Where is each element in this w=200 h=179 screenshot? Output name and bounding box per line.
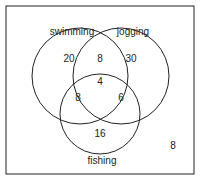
jogging-only-value: 30 [125, 53, 137, 64]
fishing-only-value: 16 [94, 128, 106, 139]
jogging-fishing-value: 6 [118, 92, 124, 103]
outside-value: 8 [170, 140, 176, 151]
swimming-jogging-value: 8 [97, 53, 103, 64]
swimming-only-value: 20 [63, 53, 75, 64]
venn-diagram: swimming jogging fishing 20 30 16 8 8 6 … [0, 0, 200, 179]
swimming-label: swimming [50, 26, 94, 37]
all-three-value: 4 [97, 76, 103, 87]
jogging-label: jogging [116, 26, 149, 37]
fishing-label: fishing [88, 155, 117, 166]
swimming-fishing-value: 8 [75, 92, 81, 103]
